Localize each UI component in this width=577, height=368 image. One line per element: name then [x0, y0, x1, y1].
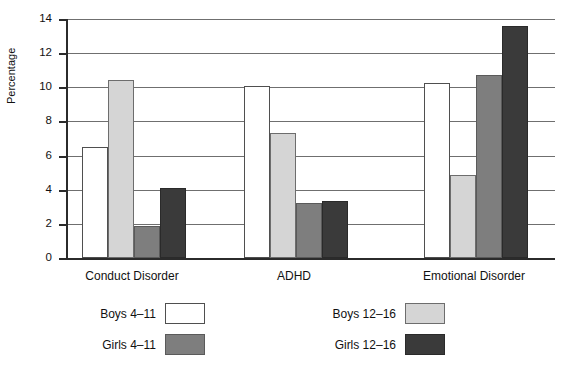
bar [296, 203, 322, 258]
y-tick-mark [59, 53, 66, 55]
bar [134, 226, 160, 258]
legend-color-swatch [405, 334, 445, 355]
legend-item-label: Boys 12–16 [300, 308, 396, 320]
y-tick-mark [59, 258, 66, 260]
legend-color-swatch [405, 303, 445, 324]
y-tick-label: 10 [39, 81, 52, 93]
legend-color-swatch [165, 334, 205, 355]
legend-item-label: Boys 4–11 [60, 308, 156, 320]
x-axis-category-label: ADHD [214, 270, 374, 282]
bar [450, 175, 476, 258]
y-tick-mark [59, 87, 66, 89]
y-tick-label: 14 [39, 13, 52, 25]
y-tick-label: 12 [39, 47, 52, 59]
bar [322, 201, 348, 258]
y-tick-mark [59, 19, 66, 21]
legend-item-label: Girls 4–11 [60, 339, 156, 351]
legend-item: Girls 12–16 [300, 334, 445, 355]
bar [244, 86, 270, 258]
y-tick-mark [59, 121, 66, 123]
bar [160, 188, 186, 258]
bar [476, 75, 502, 258]
y-tick-mark [59, 156, 66, 158]
x-axis-category-label: Conduct Disorder [52, 270, 212, 282]
x-axis-category-label: Emotional Disorder [394, 270, 554, 282]
y-tick-label: 6 [46, 150, 52, 162]
bar [82, 147, 108, 258]
bar [108, 80, 134, 258]
legend-item: Girls 4–11 [60, 334, 205, 355]
y-tick-label: 2 [46, 218, 52, 230]
chart-legend: Boys 4–11Boys 12–16Girls 4–11Girls 12–16 [60, 303, 530, 361]
bar [424, 83, 450, 258]
bar-chart: Percentage 02468101214 Conduct DisorderA… [0, 0, 577, 368]
y-tick-label: 0 [46, 252, 52, 264]
legend-color-swatch [165, 303, 205, 324]
y-tick-mark [59, 224, 66, 226]
bar [502, 26, 528, 258]
y-tick-mark [59, 190, 66, 192]
y-tick-label: 8 [46, 115, 52, 127]
y-tick-label: 4 [46, 184, 52, 196]
legend-item: Boys 4–11 [60, 303, 205, 324]
legend-item: Boys 12–16 [300, 303, 445, 324]
y-axis-title: Percentage [6, 48, 17, 104]
legend-item-label: Girls 12–16 [300, 339, 396, 351]
gridline [68, 19, 555, 20]
gridline [68, 53, 555, 54]
plot-area [66, 19, 555, 260]
bar [270, 133, 296, 258]
